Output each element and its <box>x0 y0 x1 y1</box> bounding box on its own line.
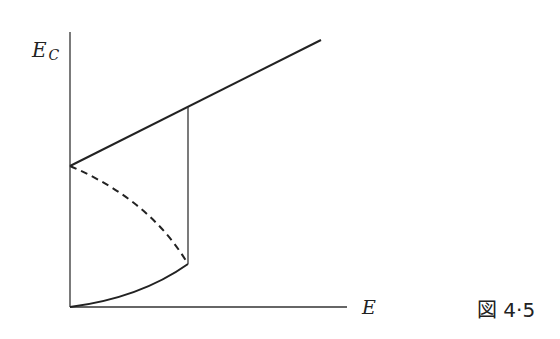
y-axis-label-subscript: C <box>49 47 60 63</box>
y-axis-label: EC <box>32 38 59 62</box>
y-axis-label-main: E <box>32 38 47 62</box>
diagram-canvas <box>0 0 560 339</box>
figure-caption: 図 4·5 <box>477 294 535 323</box>
lower-solid-curve <box>70 264 188 307</box>
x-axis-label: E <box>362 296 376 318</box>
dashed-unstable-curve <box>70 166 188 264</box>
upper-solid-line <box>70 40 321 166</box>
